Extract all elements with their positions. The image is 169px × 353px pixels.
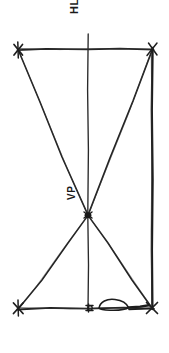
sketch-canvas: HL VP: [0, 0, 169, 353]
vanishing-point-label: VP: [66, 186, 77, 200]
corner-tick-tl: [18, 42, 19, 58]
diagonal-vp-to-bottomleft-overstroke: [20, 218, 86, 306]
center-vertical-group: [88, 34, 89, 310]
ground-figure-tail: [129, 305, 150, 307]
right-vertical-overstroke: [151, 55, 152, 305]
diagonal-vp-to-bottomleft-group: [19, 215, 88, 308]
diagonal-vp-to-bottomright-group: [88, 215, 152, 308]
diagonal-topright-to-vp-group: [88, 51, 152, 216]
diagonal-vp-to-bottomright: [88, 215, 152, 308]
vanishing-point-node: [84, 212, 92, 218]
horizon-line-group: [18, 48, 154, 50]
ground-figure: [86, 299, 150, 312]
perspective-sketch-svg: [0, 0, 169, 353]
horizon-line-label: HL: [68, 0, 80, 14]
diagonal-topleft-to-vp-group: [19, 51, 89, 216]
right-vertical-group: [151, 48, 152, 309]
center-vertical-line: [88, 34, 89, 310]
